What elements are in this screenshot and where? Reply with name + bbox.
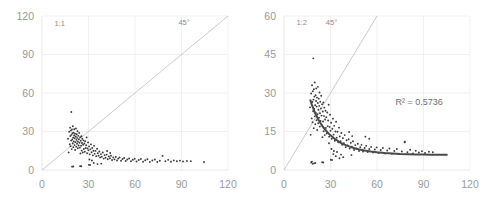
chart-panel-right: 0306090120 015304560 1:2 45° R² = 0.5736 — [242, 0, 484, 201]
r-squared-label: R² = 0.5736 — [396, 97, 443, 107]
svg-text:60: 60 — [129, 178, 141, 190]
right-plot-background — [242, 0, 484, 201]
svg-text:0: 0 — [281, 178, 287, 190]
left-chart-svg: 0306090120 0306090120 1:1 45° — [0, 0, 242, 201]
svg-text:60: 60 — [264, 10, 276, 22]
right-panel-ratio-label: 1:2 — [296, 18, 306, 27]
svg-text:15: 15 — [264, 125, 276, 137]
right-chart-svg: 0306090120 015304560 1:2 45° R² = 0.5736 — [242, 0, 484, 201]
left-45-degree-label: 45° — [178, 18, 189, 27]
chart-panel-left: 0306090120 0306090120 1:1 45° — [0, 0, 242, 201]
svg-text:60: 60 — [22, 87, 34, 99]
svg-text:90: 90 — [176, 178, 188, 190]
svg-text:120: 120 — [219, 178, 237, 190]
svg-text:30: 30 — [83, 178, 95, 190]
svg-text:30: 30 — [22, 125, 34, 137]
svg-text:0: 0 — [39, 178, 45, 190]
left-plot-background — [0, 0, 242, 201]
svg-text:60: 60 — [371, 178, 383, 190]
svg-text:120: 120 — [16, 10, 34, 22]
svg-text:45: 45 — [264, 48, 276, 60]
svg-text:30: 30 — [264, 87, 276, 99]
svg-text:90: 90 — [22, 48, 34, 60]
scatter-plot-figure: 0306090120 0306090120 1:1 45° 0306090120… — [0, 0, 484, 201]
svg-text:30: 30 — [325, 178, 337, 190]
svg-text:0: 0 — [270, 164, 276, 176]
svg-text:0: 0 — [28, 164, 34, 176]
svg-text:90: 90 — [418, 178, 430, 190]
svg-text:120: 120 — [461, 178, 479, 190]
right-45-degree-label: 45° — [326, 18, 337, 27]
left-panel-ratio-label: 1:1 — [54, 19, 64, 28]
